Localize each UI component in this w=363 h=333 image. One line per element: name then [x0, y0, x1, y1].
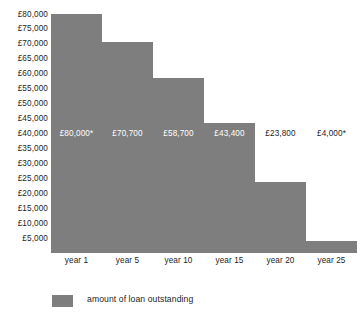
x-axis-tick-label: year 10 — [153, 256, 204, 266]
plot-area: £80,000*£70,700£58,700£43,400£23,800£4,0… — [51, 14, 357, 253]
legend-label-loan: amount of loan outstanding — [87, 294, 193, 305]
y-axis-tick-label: £25,000 — [0, 174, 48, 183]
y-axis-tick-label: £40,000 — [0, 129, 48, 138]
bar-value-label: £23,800 — [255, 129, 306, 138]
chart-legend: amount of loan outstanding — [52, 294, 193, 307]
bar-value-label: £58,700 — [153, 129, 204, 138]
y-axis-tick-label: £65,000 — [0, 54, 48, 63]
legend-swatch-loan — [52, 295, 73, 307]
loan-outstanding-chart: £80,000£75,000£70,000£65,000£60,000£55,0… — [0, 0, 363, 333]
x-axis-tick-label: year 15 — [204, 256, 255, 266]
y-axis-tick-label: £15,000 — [0, 204, 48, 213]
y-axis-tick-label: £30,000 — [0, 159, 48, 168]
bar-segment — [153, 78, 204, 253]
y-axis: £80,000£75,000£70,000£65,000£60,000£55,0… — [0, 0, 48, 253]
x-axis-tick-label: year 1 — [51, 256, 102, 266]
bar-segment — [204, 123, 255, 253]
y-axis-tick-label: £10,000 — [0, 219, 48, 228]
bar-value-label: £70,700 — [102, 129, 153, 138]
bar-value-label: £4,000* — [306, 129, 357, 138]
y-axis-tick-label: £5,000 — [0, 234, 48, 243]
y-axis-tick-label: £35,000 — [0, 144, 48, 153]
y-axis-tick-label: £80,000 — [0, 10, 48, 19]
bar-segment — [102, 42, 153, 253]
y-axis-tick-label: £20,000 — [0, 189, 48, 198]
y-axis-tick-label: £55,000 — [0, 84, 48, 93]
y-axis-tick-label: £70,000 — [0, 39, 48, 48]
y-axis-tick-label: £60,000 — [0, 69, 48, 78]
bar-segment — [306, 241, 357, 253]
y-axis-tick-label: £45,000 — [0, 114, 48, 123]
y-axis-tick-label: £50,000 — [0, 99, 48, 108]
x-axis: year 1year 5year 10year 15year 20year 25 — [51, 256, 357, 272]
bar-segment — [255, 182, 306, 253]
bar-value-label: £43,400 — [204, 129, 255, 138]
x-axis-tick-label: year 5 — [102, 256, 153, 266]
y-axis-tick-label: £75,000 — [0, 24, 48, 33]
bar-value-label: £80,000* — [51, 129, 102, 138]
x-axis-tick-label: year 25 — [306, 256, 357, 266]
x-axis-tick-label: year 20 — [255, 256, 306, 266]
